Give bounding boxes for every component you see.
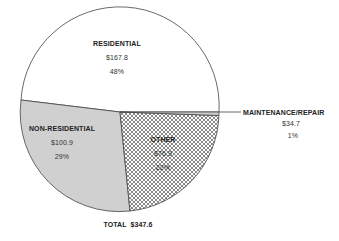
non-residential-name: NON-RESIDENTIAL: [26, 122, 98, 136]
label-residential: RESIDENTIAL $167.8 48%: [82, 37, 152, 79]
residential-value: $167.8: [82, 51, 152, 65]
non-residential-value: $100.9: [26, 136, 98, 150]
maintenance-name: MAINTENANCE/REPAIR: [243, 108, 333, 117]
label-non-residential: NON-RESIDENTIAL $100.9 29%: [26, 122, 98, 164]
residential-name: RESIDENTIAL: [82, 37, 152, 51]
non-residential-percent: 29%: [26, 150, 98, 164]
label-maintenance-repair: MAINTENANCE/REPAIR $34.7 1%: [243, 108, 333, 141]
label-other: OTHER $76.9 22%: [143, 133, 183, 175]
residential-percent: 48%: [82, 65, 152, 79]
maintenance-percent: 1%: [243, 131, 333, 141]
other-name: OTHER: [143, 133, 183, 147]
other-value: $76.9: [143, 147, 183, 161]
maintenance-value: $34.7: [243, 117, 333, 131]
other-percent: 22%: [143, 161, 183, 175]
total-label: TOTAL $347.6: [98, 221, 158, 228]
